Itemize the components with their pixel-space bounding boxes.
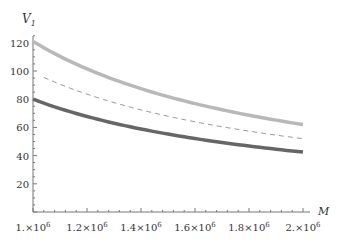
x-tick-label: 1.2×106 <box>66 221 108 233</box>
y-tick-label: 100 <box>10 66 29 77</box>
y-axis-label: V1 <box>22 12 36 28</box>
x-tick-label: 1.×106 <box>15 221 51 233</box>
series-lower <box>33 99 303 152</box>
series-middle <box>44 77 303 138</box>
x-tick-label: 1.4×106 <box>120 221 162 233</box>
chart: 204060801001201.×1061.2×1061.4×1061.6×10… <box>0 0 344 241</box>
y-tick-label: 80 <box>16 94 29 105</box>
y-tick-label: 120 <box>10 38 29 49</box>
x-tick-label: 2.×106 <box>285 221 321 233</box>
y-tick-label: 20 <box>16 179 29 190</box>
line-chart: 204060801001201.×1061.2×1061.4×1061.6×10… <box>0 0 344 241</box>
x-tick-label: 1.6×106 <box>174 221 216 233</box>
y-tick-label: 60 <box>16 122 29 133</box>
x-tick-label: 1.8×106 <box>228 221 270 233</box>
y-tick-label: 40 <box>16 151 29 162</box>
x-axis-label: M <box>317 205 330 218</box>
